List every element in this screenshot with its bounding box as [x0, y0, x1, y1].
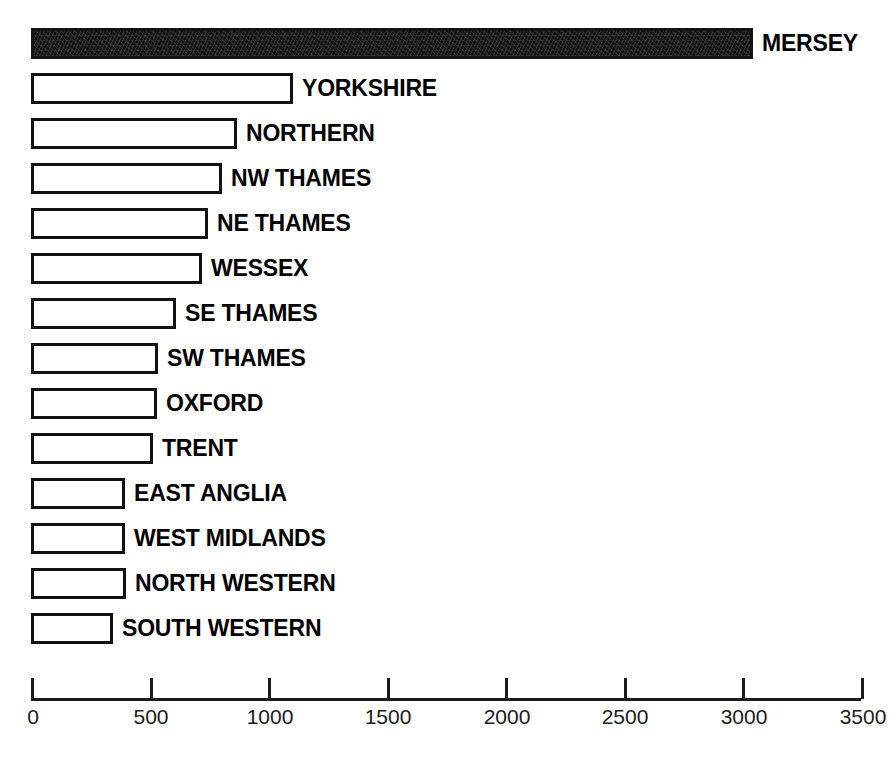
- x-axis-tick: [861, 678, 864, 699]
- x-axis-tick: [150, 678, 153, 699]
- x-axis-tick: [387, 678, 390, 699]
- bar-row: NORTH WESTERN: [31, 568, 336, 599]
- bar: [31, 343, 158, 374]
- bar: [31, 163, 222, 194]
- bar-label: WEST MIDLANDS: [134, 527, 326, 550]
- bar-label: SW THAMES: [167, 347, 306, 370]
- x-axis-tick-label: 3000: [721, 706, 768, 727]
- bar: [31, 568, 126, 599]
- bar: [31, 388, 157, 419]
- bar-row: EAST ANGLIA: [31, 478, 287, 509]
- bar-label: OXFORD: [166, 392, 263, 415]
- bar: [31, 478, 125, 509]
- bar-row: NORTHERN: [31, 118, 375, 149]
- bar-label: NORTHERN: [246, 122, 375, 145]
- bar-row: WEST MIDLANDS: [31, 523, 326, 554]
- bar-row: YORKSHIRE: [31, 73, 437, 104]
- bar-label: NORTH WESTERN: [135, 572, 336, 595]
- x-axis-line: [31, 698, 861, 701]
- x-axis-tick: [742, 678, 745, 699]
- x-axis-tick-label: 2500: [602, 706, 649, 727]
- bar-row: WESSEX: [31, 253, 308, 284]
- bar: [31, 73, 293, 104]
- x-axis-tick: [505, 678, 508, 699]
- bar-label: YORKSHIRE: [302, 77, 437, 100]
- bar: [31, 118, 237, 149]
- bar-label: EAST ANGLIA: [134, 482, 287, 505]
- bar: [31, 208, 208, 239]
- bar-row: SW THAMES: [31, 343, 306, 374]
- bar: [31, 28, 753, 59]
- x-axis-tick: [624, 678, 627, 699]
- x-axis-tick-label: 500: [133, 706, 168, 727]
- bar-row: TRENT: [31, 433, 238, 464]
- bar-label: TRENT: [162, 437, 238, 460]
- bar: [31, 253, 202, 284]
- bar: [31, 298, 176, 329]
- bar-row: SE THAMES: [31, 298, 317, 329]
- bar-row: SOUTH WESTERN: [31, 613, 321, 644]
- bar: [31, 433, 153, 464]
- bar: [31, 613, 113, 644]
- bar-label: SOUTH WESTERN: [122, 617, 321, 640]
- bar-label: SE THAMES: [185, 302, 317, 325]
- bar-label: MERSEY: [762, 32, 858, 55]
- x-axis-tick-label: 3500: [840, 706, 887, 727]
- x-axis: 0500100015002000250030003500: [0, 678, 889, 758]
- x-axis-tick: [31, 678, 34, 699]
- x-axis-tick-label: 2000: [484, 706, 531, 727]
- x-axis-tick-label: 0: [27, 706, 39, 727]
- bar-row: NW THAMES: [31, 163, 371, 194]
- bar-row: NE THAMES: [31, 208, 351, 239]
- bar: [31, 523, 125, 554]
- bar-label: NW THAMES: [231, 167, 371, 190]
- x-axis-tick: [268, 678, 271, 699]
- bar-row: OXFORD: [31, 388, 263, 419]
- bar-label: WESSEX: [211, 257, 308, 280]
- horizontal-bar-chart: MERSEYYORKSHIRENORTHERNNW THAMESNE THAME…: [0, 0, 889, 761]
- x-axis-tick-label: 1500: [365, 706, 412, 727]
- bar-row: MERSEY: [31, 28, 858, 59]
- x-axis-tick-label: 1000: [247, 706, 294, 727]
- bar-label: NE THAMES: [217, 212, 351, 235]
